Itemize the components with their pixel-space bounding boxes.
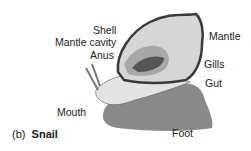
caption-title: Snail bbox=[32, 128, 58, 140]
label-anus: Anus bbox=[90, 50, 114, 61]
label-shell: Shell bbox=[93, 25, 116, 36]
label-mouth: Mouth bbox=[57, 107, 86, 118]
label-mantle-cavity: Mantle cavity bbox=[55, 37, 116, 48]
label-mantle: Mantle bbox=[209, 31, 241, 42]
figure-caption: (b) Snail bbox=[12, 129, 58, 140]
label-gut: Gut bbox=[205, 78, 222, 89]
label-foot: Foot bbox=[172, 128, 193, 139]
label-gills: Gills bbox=[204, 59, 224, 70]
caption-letter: (b) bbox=[12, 128, 25, 140]
tentacle bbox=[86, 68, 98, 90]
